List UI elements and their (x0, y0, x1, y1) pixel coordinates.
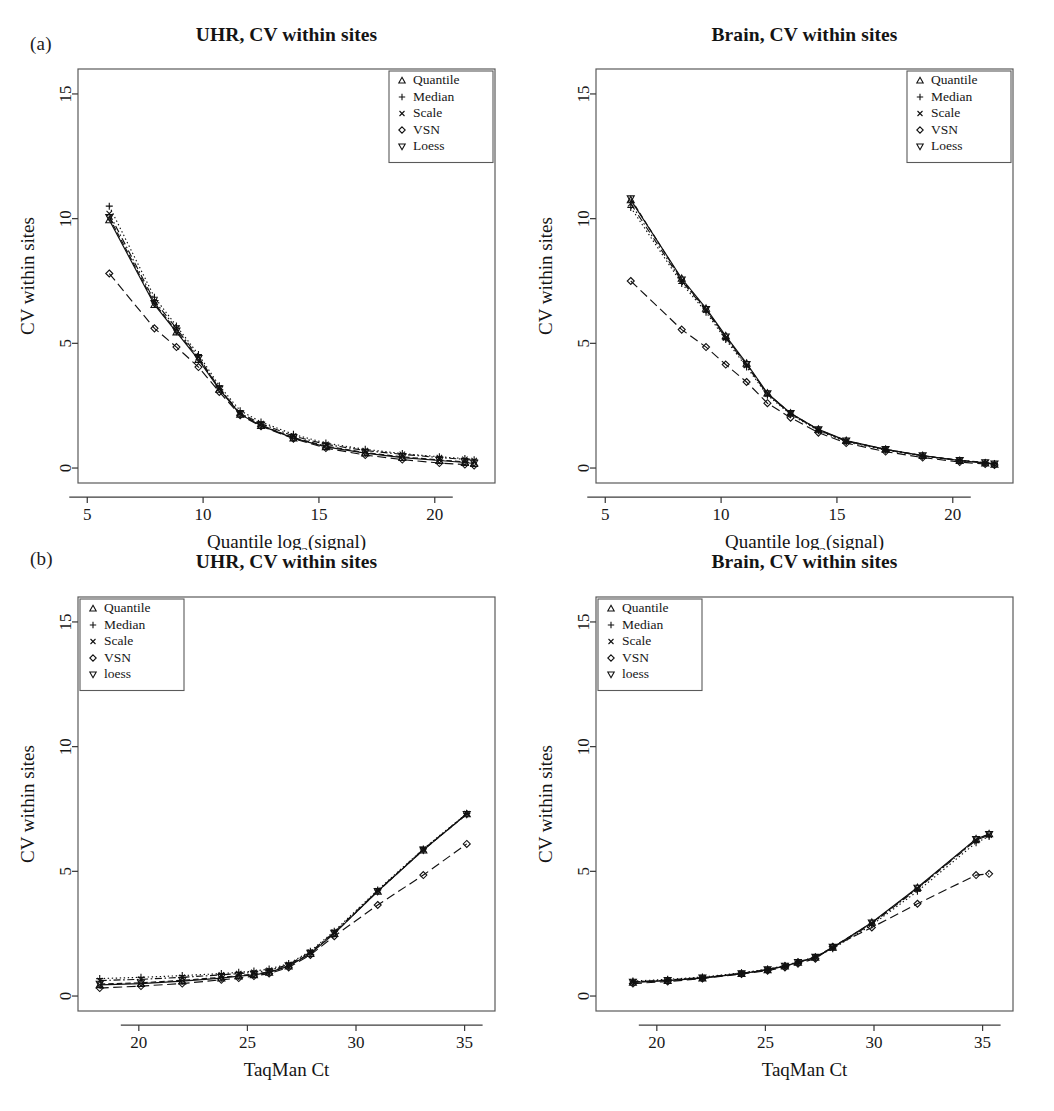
y-tick-label: 5 (575, 867, 594, 876)
legend: QuantileMedianScaleVSNLoess (389, 71, 493, 163)
legend-label: Scale (622, 633, 651, 648)
series-scale (107, 211, 477, 463)
y-tick-label: 15 (575, 613, 594, 630)
legend-label: Scale (413, 105, 442, 120)
x-tick-label: 25 (757, 1033, 774, 1052)
legend: QuantileMedianScaleVSNloess (80, 599, 184, 691)
series-loess (96, 811, 470, 987)
y-tick-label: 5 (575, 339, 594, 348)
legend-label: Median (622, 617, 663, 632)
panel-label-b: (b) (30, 548, 53, 570)
y-tick-label: 15 (575, 85, 594, 102)
y-tick-label: 0 (575, 992, 594, 1001)
series-line-quantile (109, 220, 474, 464)
series-line-scale (100, 814, 467, 981)
y-axis: 051015 (57, 85, 79, 472)
series-vsn (106, 270, 478, 469)
legend: QuantileMedianScaleVSNloess (598, 599, 702, 691)
legend: QuantileMedianScaleVSNLoess (907, 71, 1011, 163)
legend-label: VSN (413, 122, 440, 137)
legend-label: Quantile (931, 72, 978, 87)
marker-plus-icon (106, 203, 113, 210)
series-vsn (627, 277, 998, 468)
x-tick-label: 20 (944, 505, 961, 524)
plot-title-a-right: Brain, CV within sites (596, 24, 1013, 46)
x-axis-title: TaqMan Ct (244, 1059, 330, 1080)
series-scale (628, 201, 997, 467)
legend-label: VSN (622, 650, 649, 665)
legend-label: VSN (931, 122, 958, 137)
y-tick-label: 15 (57, 613, 76, 630)
legend-label: Median (931, 89, 972, 104)
y-tick-label: 10 (57, 738, 76, 755)
legend-label: loess (104, 666, 131, 681)
x-tick-label: 35 (456, 1033, 473, 1052)
series-line-quantile (100, 814, 467, 985)
plot-a-right-brain: 051015CV within sites5101520Quantile log… (528, 50, 1028, 550)
series-line-loess (100, 814, 467, 984)
x-tick-label: 20 (426, 505, 443, 524)
legend-label: VSN (104, 650, 131, 665)
series-median (96, 810, 470, 982)
series-line-scale (631, 204, 995, 464)
legend-label: Scale (931, 105, 960, 120)
x-tick-label: 5 (601, 505, 610, 524)
y-tick-label: 15 (57, 85, 76, 102)
x-tick-label: 30 (866, 1033, 883, 1052)
plot-b-left-uhr: 051015CV within sites20253035TaqMan CtQu… (10, 577, 510, 1097)
x-tick-label: 20 (130, 1033, 147, 1052)
x-tick-label: 30 (348, 1033, 365, 1052)
legend-label: Quantile (622, 600, 669, 615)
legend-label: Quantile (413, 72, 460, 87)
series-quantile (96, 810, 470, 987)
legend-label: Loess (413, 138, 445, 153)
x-axis-title: Quantile log2(signal) (207, 531, 366, 550)
series-quantile (629, 830, 992, 985)
y-axis-title: CV within sites (17, 217, 38, 335)
y-axis-title: CV within sites (17, 745, 38, 863)
x-tick-label: 35 (974, 1033, 991, 1052)
x-tick-label: 25 (239, 1033, 256, 1052)
x-axis-title: TaqMan Ct (762, 1059, 848, 1080)
series-line-vsn (631, 281, 995, 465)
figure-canvas: (a) (b) UHR, CV within sites Brain, CV w… (0, 0, 1054, 1111)
y-axis-title: CV within sites (535, 217, 556, 335)
series-vsn (96, 840, 470, 991)
x-tick-label: 15 (310, 505, 327, 524)
y-tick-label: 10 (575, 210, 594, 227)
legend-label: Scale (104, 633, 133, 648)
series-median (629, 833, 992, 985)
plot-b-right-brain: 051015CV within sites20253035TaqMan CtQu… (528, 577, 1028, 1097)
plot-title-b-left: UHR, CV within sites (78, 551, 495, 573)
series-vsn (629, 870, 992, 987)
series-line-median (100, 813, 467, 978)
x-tick-label: 15 (828, 505, 845, 524)
series-line-median (109, 206, 474, 460)
plot-title-b-right: Brain, CV within sites (596, 551, 1013, 573)
legend-label: Median (413, 89, 454, 104)
x-axis: 5101520 (69, 497, 453, 524)
plot-a-left-uhr: 051015CV within sites5101520Quantile log… (10, 50, 510, 550)
x-axis: 20253035 (639, 1025, 1001, 1052)
series-scale (97, 811, 470, 983)
series-loess (106, 215, 478, 467)
legend-label: Median (104, 617, 145, 632)
series-loess (629, 832, 992, 986)
x-axis: 20253035 (121, 1025, 483, 1052)
y-axis-title: CV within sites (535, 745, 556, 863)
y-axis: 051015 (575, 85, 597, 472)
series-line-vsn (633, 874, 989, 984)
y-tick-label: 10 (57, 210, 76, 227)
series-median (106, 203, 478, 464)
y-tick-label: 10 (575, 738, 594, 755)
y-axis: 051015 (57, 613, 79, 1000)
series-quantile (106, 216, 478, 466)
y-tick-label: 5 (57, 867, 76, 876)
x-axis-title: Quantile log2(signal) (725, 531, 884, 550)
plot-title-a-left: UHR, CV within sites (78, 24, 495, 46)
series-line-median (631, 207, 995, 463)
series-line-loess (109, 217, 474, 463)
series-scale (630, 832, 992, 984)
y-tick-label: 0 (57, 464, 76, 473)
legend-label: Quantile (104, 600, 151, 615)
